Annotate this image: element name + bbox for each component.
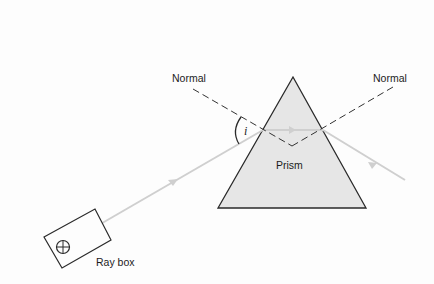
emergent-ray-arrow-icon — [368, 162, 377, 169]
angle-arc — [235, 117, 241, 144]
normal-label-right: Normal — [373, 72, 407, 84]
normal-label-left: Normal — [172, 72, 206, 84]
ray-box-label: Ray box — [96, 256, 135, 268]
angle-label: i — [244, 124, 247, 138]
prism-label: Prism — [276, 159, 303, 171]
prism-refraction-diagram: Normal Normal i Prism Ray box — [0, 0, 434, 284]
